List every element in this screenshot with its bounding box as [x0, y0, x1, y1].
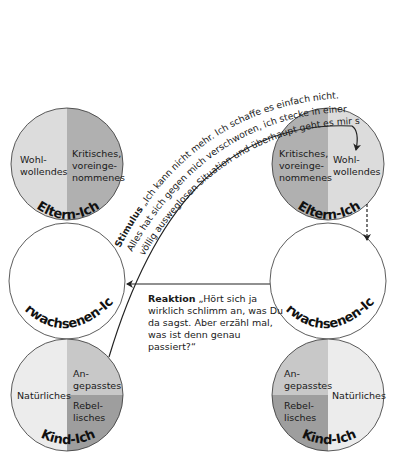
right-child-natural-label: Natürliches [332, 390, 386, 401]
right-child-ego-state: An- gepasstes Rebel- lisches Natürliches… [272, 339, 386, 451]
left-child-natural-label: Natürliches [17, 390, 71, 401]
ego-state-diagram: Wohl- wollendes Kritisches, voreinge- no… [0, 0, 394, 461]
right-parent-critical-label: Kritisches, voreinge- nommenes [279, 148, 332, 183]
left-child-rebellious-label: Rebel- lisches [73, 400, 106, 423]
right-child-rebellious-label: Rebel- lisches [284, 400, 317, 423]
left-parent-critical-label: Kritisches, voreinge- nommenes [72, 148, 125, 183]
left-child-ego-state: Natürliches An- gepasstes Rebel- lisches… [11, 339, 123, 451]
reaction-text: Reaktion „Hört sich ja wirklich schlimm … [148, 293, 286, 352]
left-parent-ego-state: Wohl- wollendes Kritisches, voreinge- no… [11, 108, 125, 222]
